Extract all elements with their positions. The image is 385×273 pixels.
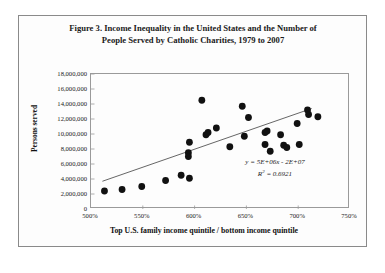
data-point — [296, 141, 303, 148]
data-point — [264, 128, 271, 135]
data-point — [277, 131, 284, 138]
x-tick-label: 550% — [134, 212, 149, 219]
data-point — [294, 120, 301, 127]
data-point — [101, 188, 108, 195]
data-point — [239, 103, 246, 110]
scatter-chart: 02,000,0004,000,0006,000,0008,000,00010,… — [19, 16, 368, 248]
r-squared-value: R2 = 0.6921 — [215, 167, 335, 179]
x-tick-label: 650% — [238, 212, 253, 219]
plot-svg — [91, 74, 350, 209]
x-tick-label: 750% — [341, 212, 356, 219]
data-point — [283, 144, 290, 151]
data-point — [119, 186, 126, 193]
data-point — [198, 97, 205, 104]
data-point — [186, 175, 193, 182]
data-point — [178, 172, 185, 179]
x-axis-label: Top U.S. family income quintile / bottom… — [59, 226, 349, 235]
data-point — [267, 148, 274, 155]
data-point — [241, 133, 248, 140]
data-point — [314, 113, 321, 120]
data-point — [262, 141, 269, 148]
regression-equation: y = 5E+06x - 2E+07 — [215, 157, 335, 167]
x-tick-label: 700% — [289, 212, 304, 219]
data-point — [185, 153, 192, 160]
figure-container: Figure 3. Income Inequality in the Unite… — [18, 15, 367, 247]
plot-area — [90, 73, 349, 208]
data-point — [305, 111, 312, 118]
data-point — [138, 183, 145, 190]
x-tick-label: 600% — [186, 212, 201, 219]
data-points — [101, 97, 321, 195]
data-point — [245, 114, 252, 121]
y-axis-label: Persons served — [30, 93, 39, 165]
data-point — [213, 125, 220, 132]
x-tick-label: 500% — [82, 212, 97, 219]
data-point — [186, 139, 193, 146]
regression-annotation: y = 5E+06x - 2E+07 R2 = 0.6921 — [215, 157, 335, 179]
data-point — [226, 143, 233, 150]
data-point — [162, 177, 169, 184]
data-point — [205, 129, 212, 136]
